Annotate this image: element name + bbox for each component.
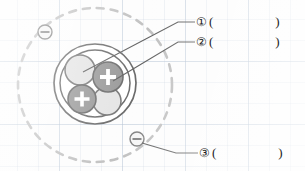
- electron-upper-left: [38, 25, 52, 39]
- answer-close-paren-1: ): [275, 15, 279, 28]
- answer-open-paren-1: (: [209, 15, 213, 28]
- answer-row-1: ① ( ): [196, 15, 280, 28]
- answer-close-paren-3: ): [278, 146, 282, 159]
- answer-marker-2: ②: [196, 36, 207, 48]
- answer-marker-3: ③: [199, 147, 210, 159]
- answer-marker-1: ①: [196, 16, 207, 28]
- answer-close-paren-2: ): [275, 35, 279, 48]
- electron-lower-right: [130, 132, 144, 146]
- diagram-canvas: ① ( ) ② ( ) ③ ( ): [0, 0, 305, 171]
- nucleon-neutron-top-left: [65, 55, 95, 85]
- answer-open-paren-2: (: [209, 35, 213, 48]
- answer-row-3: ③ ( ): [199, 146, 283, 159]
- answer-row-2: ② ( ): [196, 35, 280, 48]
- answer-open-paren-3: (: [212, 146, 216, 159]
- leader-line-3: [142, 143, 198, 153]
